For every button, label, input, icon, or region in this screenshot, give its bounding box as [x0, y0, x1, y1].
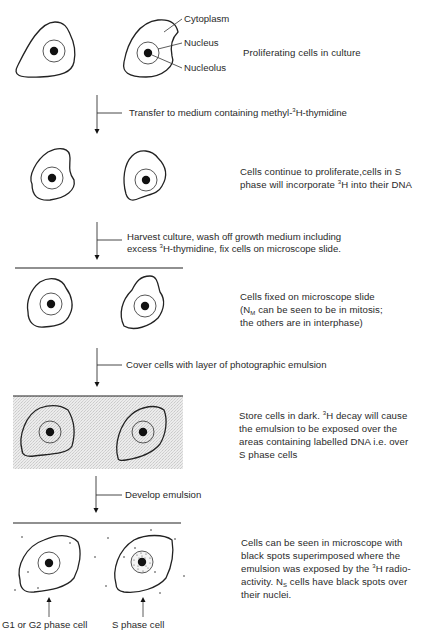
label-nucleus: Nucleus — [184, 37, 219, 49]
stage-3-cells — [28, 276, 164, 328]
step-4-label: Develop emulsion — [125, 489, 201, 501]
stage-5-description: Cells can be seen in microscope with bla… — [241, 536, 419, 601]
cell-outline — [16, 22, 75, 77]
cell-outline-labelled — [124, 20, 178, 77]
stage-1-cells — [16, 19, 182, 77]
label-nucleolus: Nucleolus — [184, 62, 226, 74]
arrow-step-4 — [94, 476, 123, 513]
step-1-label: Transfer to medium containing methyl-3H-… — [129, 107, 347, 119]
stage-2-cells — [31, 149, 166, 200]
step-2-label: Harvest culture, wash off growth medium … — [127, 231, 341, 255]
stage-2-description: Cells continue to proliferate,cells in S… — [240, 165, 425, 191]
label-s-phase-cell: S phase cell — [112, 619, 164, 631]
nucleolus — [50, 47, 58, 55]
arrow-step-2 — [95, 222, 123, 260]
nucleolus — [144, 49, 152, 57]
stage-5-cells — [14, 529, 185, 617]
label-cytoplasm: Cytoplasm — [184, 13, 229, 25]
stage-1-description: Proliferating cells in culture — [243, 46, 423, 59]
label-g1-g2-phase-cell: G1 or G2 phase cell — [2, 619, 87, 631]
stage-3-description: Cells fixed on microscope slide (NM can … — [240, 290, 425, 329]
stage-4-emulsion — [13, 396, 183, 469]
step-3-label: Cover cells with layer of photographic e… — [126, 359, 327, 371]
arrow-step-3 — [95, 348, 123, 387]
stage-4-description: Store cells in dark. 3H decay will cause… — [239, 409, 409, 461]
arrow-step-1 — [95, 95, 123, 134]
